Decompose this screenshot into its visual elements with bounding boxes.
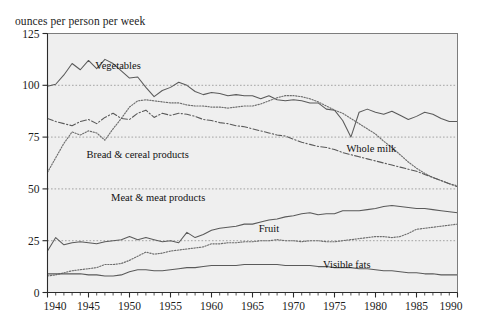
series-label-vegetables: Vegetables bbox=[95, 60, 140, 71]
series-label-fruit: Fruit bbox=[259, 223, 280, 234]
x-tick-label-1985: 1985 bbox=[405, 300, 428, 312]
x-tick-label-1945: 1945 bbox=[77, 300, 100, 312]
y-tick-label-125: 125 bbox=[22, 28, 40, 40]
y-tick-label-100: 100 bbox=[22, 79, 40, 91]
y-tick-label-75: 75 bbox=[28, 131, 40, 143]
x-tick-label-1960: 1960 bbox=[200, 300, 223, 312]
series-label-meat-meat-products: Meat & meat products bbox=[111, 192, 205, 203]
x-tick-label-1940: 1940 bbox=[44, 300, 67, 312]
x-tick-label-1950: 1950 bbox=[118, 300, 141, 312]
chart-container: ounces per person per week 0255075100125… bbox=[0, 0, 485, 331]
series-label-bread-cereal-products: Bread & cereal products bbox=[87, 149, 189, 160]
series-label-whole-milk: Whole milk bbox=[346, 143, 397, 154]
x-tick-label-1955: 1955 bbox=[159, 300, 182, 312]
x-tick-label-1965: 1965 bbox=[241, 300, 264, 312]
y-tick-label-0: 0 bbox=[34, 287, 40, 299]
x-axis: 1940194519501955196019651970197519801985… bbox=[44, 293, 463, 312]
y-axis: 0255075100125 bbox=[22, 28, 47, 299]
plot-area-background bbox=[48, 34, 458, 293]
y-tick-label-50: 50 bbox=[28, 183, 40, 195]
x-tick-label-1980: 1980 bbox=[364, 300, 387, 312]
series-label-visible-fats: Visible fats bbox=[323, 259, 371, 270]
y-tick-label-25: 25 bbox=[28, 235, 40, 247]
x-tick-label-1990: 1990 bbox=[440, 300, 463, 312]
x-tick-label-1975: 1975 bbox=[323, 300, 346, 312]
line-chart-svg: 0255075100125 19401945195019551960196519… bbox=[0, 0, 485, 331]
x-tick-label-1970: 1970 bbox=[282, 300, 305, 312]
